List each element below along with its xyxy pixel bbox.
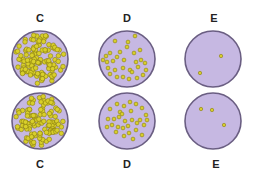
colony bbox=[106, 66, 110, 70]
colony bbox=[110, 123, 114, 127]
colony bbox=[31, 113, 36, 118]
dish-plate bbox=[185, 31, 241, 87]
colony bbox=[133, 34, 137, 38]
colony bbox=[143, 61, 147, 65]
colony bbox=[101, 58, 105, 62]
colony bbox=[120, 112, 124, 116]
colony bbox=[28, 73, 33, 78]
colony bbox=[41, 94, 46, 99]
colony bbox=[141, 73, 145, 77]
colony bbox=[30, 119, 35, 124]
colony bbox=[37, 117, 42, 122]
label-bottom-e: E bbox=[206, 158, 226, 170]
colony bbox=[53, 114, 58, 119]
colony bbox=[121, 126, 125, 130]
colony bbox=[126, 40, 130, 44]
colony bbox=[108, 51, 112, 55]
colony bbox=[59, 125, 64, 130]
colony bbox=[115, 55, 119, 59]
colony bbox=[31, 38, 36, 43]
colony bbox=[140, 133, 144, 137]
petri-dish-d-bottom bbox=[99, 93, 155, 149]
colony bbox=[138, 118, 142, 122]
colony bbox=[25, 58, 30, 63]
colony bbox=[56, 54, 61, 59]
colony bbox=[29, 135, 34, 140]
colony bbox=[61, 52, 66, 57]
colony bbox=[29, 96, 34, 101]
colony bbox=[27, 107, 32, 112]
colony bbox=[47, 111, 52, 116]
colony bbox=[44, 130, 49, 135]
colony bbox=[199, 107, 202, 110]
colony bbox=[210, 108, 213, 111]
colony bbox=[112, 117, 116, 121]
dish-plate bbox=[185, 93, 241, 149]
colony bbox=[33, 66, 38, 71]
colony bbox=[127, 77, 131, 81]
colony bbox=[36, 60, 41, 65]
colony bbox=[117, 115, 121, 119]
colony bbox=[35, 71, 40, 76]
colony bbox=[122, 58, 126, 62]
colony bbox=[15, 124, 20, 129]
colony bbox=[23, 120, 28, 125]
colony bbox=[43, 33, 48, 38]
colony bbox=[116, 125, 120, 129]
colony bbox=[37, 51, 42, 56]
colony bbox=[125, 45, 129, 49]
colony bbox=[17, 111, 22, 116]
colony bbox=[20, 71, 25, 76]
colony bbox=[56, 59, 61, 64]
colony bbox=[23, 40, 28, 45]
colony bbox=[111, 59, 115, 63]
colony bbox=[23, 67, 28, 72]
colony bbox=[198, 71, 201, 74]
colony bbox=[23, 124, 28, 129]
petri-dish-e-top bbox=[185, 31, 241, 87]
petri-dish-diagram bbox=[0, 0, 256, 182]
colony bbox=[130, 118, 134, 122]
colony bbox=[122, 104, 126, 108]
colony bbox=[134, 60, 138, 64]
colony bbox=[41, 39, 46, 44]
colony bbox=[42, 112, 47, 117]
petri-dish-c-top bbox=[12, 31, 68, 87]
colony bbox=[16, 65, 21, 70]
colony bbox=[105, 60, 109, 64]
colony bbox=[121, 66, 125, 70]
colony bbox=[219, 54, 222, 57]
colony bbox=[14, 114, 19, 119]
colony bbox=[121, 75, 125, 79]
colony bbox=[40, 76, 45, 81]
colony bbox=[130, 70, 134, 74]
colony bbox=[37, 39, 42, 44]
colony bbox=[128, 100, 132, 104]
colony bbox=[138, 48, 142, 52]
colony bbox=[47, 42, 52, 47]
label-bottom-c: C bbox=[30, 158, 50, 170]
colony bbox=[30, 53, 35, 58]
petri-dish-c-bottom bbox=[12, 93, 68, 149]
colony bbox=[43, 48, 48, 53]
colony bbox=[55, 107, 60, 112]
colony bbox=[108, 72, 112, 76]
colony bbox=[19, 53, 24, 58]
colony bbox=[134, 102, 138, 106]
colony bbox=[31, 33, 36, 38]
colony bbox=[104, 54, 108, 58]
colony bbox=[48, 63, 53, 68]
colony bbox=[61, 119, 66, 124]
colony bbox=[105, 125, 109, 129]
colony bbox=[134, 128, 138, 132]
colony bbox=[55, 47, 60, 52]
colony bbox=[55, 128, 60, 133]
colony bbox=[136, 65, 140, 69]
colony bbox=[24, 53, 29, 58]
colony bbox=[15, 49, 20, 54]
colony bbox=[34, 44, 39, 49]
colony bbox=[35, 81, 40, 86]
colony bbox=[52, 73, 57, 78]
colony bbox=[126, 124, 130, 128]
colony bbox=[30, 101, 35, 106]
